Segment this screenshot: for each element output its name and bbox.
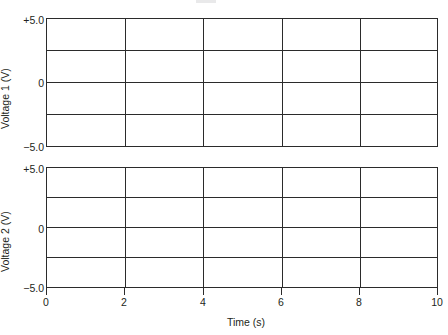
gridline-vertical: [360, 168, 361, 287]
x-tick-mark: [437, 288, 438, 295]
x-tick-label-0: 0: [26, 297, 66, 308]
gridline-horizontal: [47, 227, 437, 228]
y-axis-title-voltage-1: Voltage 1 (V): [0, 115, 11, 129]
x-axis-title: Time (s): [0, 316, 448, 328]
gridline-horizontal: [47, 82, 437, 83]
x-tick-label-6: 6: [261, 297, 301, 308]
x-tick-label-10: 10: [417, 297, 448, 308]
gridline-vertical: [125, 168, 126, 287]
plot-area-voltage-2: [46, 167, 438, 288]
y-tick-label-panel1-zero: 0: [0, 78, 44, 89]
y-tick-label-panel1-minus5: −5.0: [0, 142, 44, 153]
gridline-horizontal: [47, 257, 437, 258]
y-axis-title-voltage-2: Voltage 2 (V): [0, 258, 11, 272]
gridline-horizontal: [47, 114, 437, 115]
gridline-horizontal: [47, 197, 437, 198]
scan-artifact: [196, 0, 216, 3]
x-axis-title-text: Time (s): [227, 316, 265, 328]
y-tick-label-panel1-plus5: +5.0: [0, 15, 44, 26]
plot-area-voltage-1: [46, 18, 438, 147]
x-tick-label-8: 8: [339, 297, 379, 308]
y-tick-label-panel2-plus5: +5.0: [0, 164, 44, 175]
gridline-vertical: [282, 168, 283, 287]
x-tick-label-4: 4: [183, 297, 223, 308]
x-tick-label-2: 2: [104, 297, 144, 308]
gridline-vertical: [203, 19, 204, 146]
x-tick-mark: [46, 288, 47, 295]
gridline-vertical: [125, 19, 126, 146]
y-tick-label-panel2-minus5: −5.0: [0, 283, 44, 294]
gridline-horizontal: [47, 50, 437, 51]
x-tick-mark: [359, 288, 360, 295]
y-tick-label-panel2-zero: 0: [0, 224, 44, 235]
gridline-vertical: [360, 19, 361, 146]
x-tick-mark: [281, 288, 282, 295]
x-tick-mark: [203, 288, 204, 295]
voltage-time-chart: Voltage 1 (V) +5.0 0 −5.0 Voltage 2 (V) …: [0, 0, 448, 335]
gridline-vertical: [282, 19, 283, 146]
gridline-vertical: [203, 168, 204, 287]
x-tick-mark: [124, 288, 125, 295]
